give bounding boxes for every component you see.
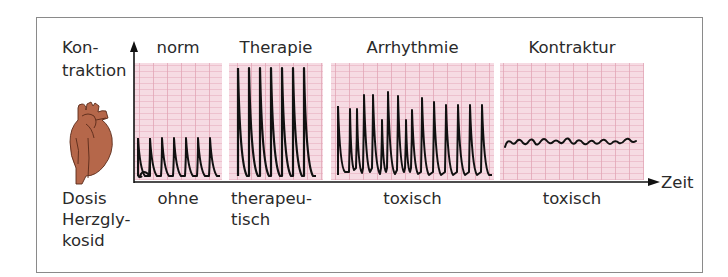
heart-icon <box>70 102 112 184</box>
panel-title-norm: norm <box>134 38 222 57</box>
row-label-line2: Herzgly- <box>62 210 131 229</box>
row-label-line3: kosid <box>62 231 105 250</box>
x-axis-arrow-icon <box>648 178 660 186</box>
panel-title-arrhythmie: Arrhythmie <box>331 38 494 57</box>
row-label-line1: Dosis <box>62 189 107 208</box>
dose-label-arrhythmie: toxisch <box>331 189 494 208</box>
panel-title-kontraktur: Kontraktur <box>500 38 644 57</box>
y-axis-label-line2: traktion <box>62 61 127 80</box>
x-axis-label: Zeit <box>661 173 694 192</box>
dose-label-therapie-line2: tisch <box>231 210 270 229</box>
dose-label-therapie-line1: therapeu- <box>231 189 312 208</box>
dose-label-kontraktur: toxisch <box>500 189 644 208</box>
dose-label-norm: ohne <box>134 189 222 208</box>
grid-panel-kontraktur <box>500 63 644 180</box>
y-axis-label-line1: Kon- <box>62 38 99 57</box>
panel-title-therapie: Therapie <box>229 38 323 57</box>
